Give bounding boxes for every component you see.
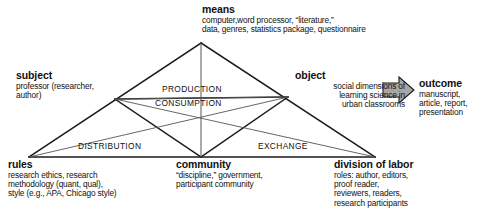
node-division-body: roles: author, editors, proof reader, re… xyxy=(334,171,413,208)
diagram-canvas: PRODUCTION CONSUMPTION DISTRIBUTION EXCH… xyxy=(0,0,485,224)
node-subject-body: professor (researcher, author) xyxy=(16,82,94,101)
node-outcome: outcome manuscript, article, report, pre… xyxy=(419,78,467,118)
node-outcome-body: manuscript, article, report, presentatio… xyxy=(419,90,467,118)
node-rules-heading: rules xyxy=(8,159,116,171)
node-object-body: social dimensions of learning science in… xyxy=(295,82,405,110)
node-community-body: “discipline,” government, participant co… xyxy=(176,171,263,190)
node-object: object social dimensions of learning sci… xyxy=(295,70,405,110)
node-subject-heading: subject xyxy=(16,70,94,82)
node-community: community “discipline,” government, part… xyxy=(176,159,263,189)
node-subject: subject professor (researcher, author) xyxy=(16,70,94,100)
node-outcome-heading: outcome xyxy=(419,78,467,90)
node-means-heading: means xyxy=(202,4,366,16)
band-consumption: CONSUMPTION xyxy=(155,98,222,108)
node-object-heading: object xyxy=(295,70,405,82)
node-rules-body: research ethics, research methodology (q… xyxy=(8,171,116,199)
band-production: PRODUCTION xyxy=(162,84,222,94)
node-rules: rules research ethics, research methodol… xyxy=(8,159,116,199)
node-means-body: computer,word processor, “literature,” d… xyxy=(202,16,366,35)
node-division-heading: division of labor xyxy=(334,159,413,171)
band-distribution: DISTRIBUTION xyxy=(78,141,141,151)
node-division-of-labor: division of labor roles: author, editors… xyxy=(334,159,413,208)
node-community-heading: community xyxy=(176,159,263,171)
band-exchange: EXCHANGE xyxy=(258,141,308,151)
node-means: means computer,word processor, “literatu… xyxy=(202,4,366,34)
